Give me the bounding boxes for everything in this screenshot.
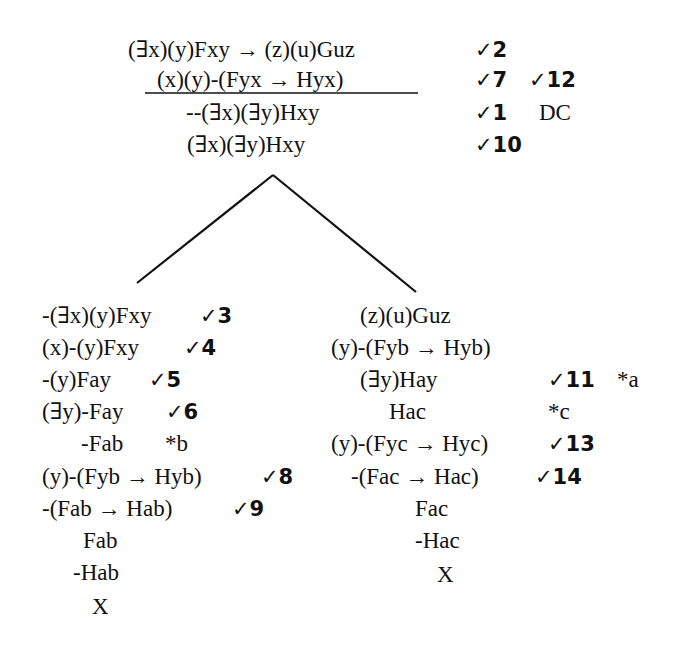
left-formula: -(y)Fay [42,366,111,394]
left-formula: -(Fab → Hab) [42,495,172,523]
check-annotation: ✓6 [166,398,198,426]
right-formula: (z)(u)Guz [360,302,451,330]
trunk-formula: (∃x)(∃y)Hxy [187,131,305,159]
rule-annotation: DC [539,99,571,127]
right-formula: (y)-(Fyc → Hyc) [331,430,488,458]
check-annotation: ✓14 [535,463,582,491]
check-annotation: ✓11 [548,366,595,394]
closed-branch-mark: X [92,593,109,621]
constant-annotation: *a [617,366,639,394]
left-formula: (y)-(Fyb → Hyb) [42,463,202,491]
right-formula: Hac [389,398,426,426]
trunk-formula: (x)(y)-(Fyx → Hyx) [157,66,344,94]
trunk-formula: --(∃x)(∃y)Hxy [186,99,320,127]
right-formula: (∃y)Hay [360,366,438,394]
check-annotation: ✓8 [261,463,293,491]
check-annotation: ✓12 [529,66,576,94]
check-annotation: ✓3 [200,302,232,330]
right-formula: (y)-(Fyb → Hyb) [331,334,491,362]
constant-annotation: *b [165,430,188,458]
left-formula: (∃y)-Fay [42,398,123,426]
right-formula: Fac [415,495,448,523]
check-annotation: ✓13 [548,430,595,458]
left-formula: -Hab [73,559,119,587]
check-annotation: ✓9 [232,495,264,523]
right-formula: -(Fac → Hac) [351,463,479,491]
check-annotation: ✓1 [475,99,507,127]
left-branch-line [137,175,273,283]
check-annotation: ✓2 [475,36,507,64]
closed-branch-mark: X [437,561,454,589]
check-annotation: ✓7 [475,66,507,94]
right-formula: -Hac [415,527,460,555]
left-formula: (x)-(y)Fxy [42,334,139,362]
constant-annotation: *c [548,398,570,426]
check-annotation: ✓5 [149,366,181,394]
left-formula: -Fab [81,430,123,458]
left-formula: -(∃x)(y)Fxy [42,302,152,330]
check-annotation: ✓10 [475,131,522,159]
left-formula: Fab [83,527,118,555]
right-branch-line [273,175,416,292]
check-annotation: ✓4 [184,334,216,362]
trunk-formula: (∃x)(y)Fxy → (z)(u)Guz [128,36,355,64]
